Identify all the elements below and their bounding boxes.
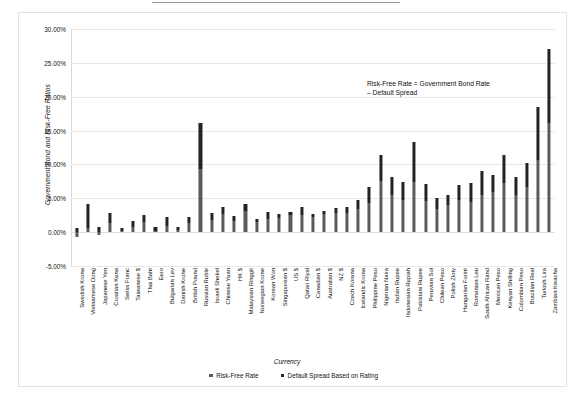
- bar-segment-risk-free-rate: [379, 181, 382, 232]
- x-axis-tick-label: US $: [293, 268, 299, 281]
- x-axis-tick-label: Polish Zloty: [450, 268, 456, 298]
- bar-group: [442, 29, 453, 266]
- bar-group: [364, 29, 375, 266]
- chart-annotation: Risk-Free Rate = Government Bond Rate – …: [367, 80, 490, 97]
- y-axis-title: Government Bond and Risk-Free Ratios: [44, 55, 51, 235]
- bar-segment-risk-free-rate: [492, 192, 495, 233]
- bar-segment-default-spread: [492, 175, 495, 192]
- bar-segment-risk-free-rate: [143, 222, 146, 232]
- chart-container: Government Bond and Risk-Free Ratios 30.…: [18, 12, 567, 387]
- bar-segment-default-spread: [525, 163, 528, 187]
- x-axis-tick-label: Japanese Yen: [102, 268, 108, 305]
- bar-segment-default-spread: [368, 187, 371, 203]
- bar-group: [420, 29, 431, 266]
- bar-group: [341, 29, 352, 266]
- bar-segment-risk-free-rate: [131, 227, 134, 232]
- x-axis-tick-label: HK $: [237, 268, 243, 281]
- bar-segment-default-spread: [289, 212, 292, 215]
- x-axis-tick-label: NZ $: [338, 268, 344, 281]
- bar-group: [296, 29, 307, 266]
- legend-item[interactable]: Risk-Free Rate: [209, 372, 258, 379]
- bar-segment-default-spread: [210, 213, 213, 220]
- bar-group: [465, 29, 476, 266]
- bar-group: [386, 29, 397, 266]
- x-axis-tick-label: Brazilian Real: [529, 268, 535, 304]
- bar-segment-risk-free-rate: [289, 215, 292, 233]
- bar-segment-risk-free-rate: [278, 218, 281, 232]
- x-axis-tick-label: Thai Baht: [147, 268, 153, 293]
- x-axis-tick-labels: Swedish KronaVietnamese DongJapanese Yen…: [71, 268, 555, 356]
- bar-segment-default-spread: [255, 219, 258, 222]
- bar-segment-default-spread: [413, 142, 416, 182]
- page-top-rule: [152, 2, 400, 3]
- bar-segment-risk-free-rate: [356, 209, 359, 232]
- bar-segment-default-spread: [345, 207, 348, 213]
- x-axis-tick-label: Zambian Kwacha: [552, 268, 558, 314]
- bar-segment-default-spread: [537, 107, 540, 161]
- y-axis-tick-label: 15.00%: [44, 127, 66, 134]
- bar-segment-default-spread: [469, 183, 472, 202]
- bar-group: [532, 29, 543, 266]
- bar-group: [499, 29, 510, 266]
- x-axis-tick-label: Bulgarian Lev: [169, 268, 175, 304]
- x-axis-tick-label: Romanian Leu: [473, 268, 479, 306]
- bar-segment-risk-free-rate: [300, 215, 303, 233]
- bar-group: [251, 29, 262, 266]
- bar-segment-risk-free-rate: [447, 205, 450, 232]
- x-axis-tick-label: Korean Won: [270, 268, 276, 301]
- bar-group: [71, 29, 82, 266]
- x-axis-tick-label: Peruvian Sol: [428, 268, 434, 301]
- bar-group: [139, 29, 150, 266]
- bar-group: [397, 29, 408, 266]
- y-axis-tick-label: 5.00%: [48, 195, 66, 202]
- x-axis-tick-label: Indian Rupee: [394, 268, 400, 303]
- bar-segment-default-spread: [401, 182, 404, 200]
- bar-segment-risk-free-rate: [86, 228, 89, 232]
- bar-segment-default-spread: [266, 212, 269, 218]
- x-axis-tick-label: Norwegian Krone: [259, 268, 265, 314]
- bar-group: [172, 29, 183, 266]
- bar-group: [206, 29, 217, 266]
- bar-group: [431, 29, 442, 266]
- bar-segment-default-spread: [75, 228, 78, 232]
- bar-group: [409, 29, 420, 266]
- bar-segment-default-spread: [278, 214, 281, 218]
- bar-segment-risk-free-rate: [514, 195, 517, 232]
- bar-segment-risk-free-rate: [368, 203, 371, 232]
- bar-segment-risk-free-rate: [458, 200, 461, 233]
- bar-group: [375, 29, 386, 266]
- bar-segment-default-spread: [131, 221, 134, 226]
- bar-segment-risk-free-rate: [345, 213, 348, 232]
- bar-segment-default-spread: [165, 217, 168, 225]
- bar-group: [217, 29, 228, 266]
- plot-area: 30.00%25.00%20.00%15.00%10.00%5.00%0.00%…: [71, 29, 555, 266]
- bar-segment-risk-free-rate: [311, 217, 314, 232]
- bar-segment-risk-free-rate: [210, 220, 213, 232]
- bar-segment-risk-free-rate: [98, 232, 101, 235]
- bar-segment-default-spread: [199, 123, 202, 169]
- bar-segment-risk-free-rate: [390, 195, 393, 233]
- bar-group: [521, 29, 532, 266]
- bar-segment-risk-free-rate: [154, 231, 157, 232]
- bar-group: [330, 29, 341, 266]
- bar-group: [150, 29, 161, 266]
- bar-group: [161, 29, 172, 266]
- x-axis-tick-label: Swedish Krona: [79, 268, 85, 308]
- bar-segment-default-spread: [300, 207, 303, 214]
- legend-swatch-icon: [281, 374, 285, 378]
- legend-label: Default Spread Based on Rating: [288, 372, 378, 379]
- bar-segment-risk-free-rate: [503, 183, 506, 232]
- bar-segment-default-spread: [447, 195, 450, 205]
- bar-segment-risk-free-rate: [334, 213, 337, 233]
- bar-group: [544, 29, 555, 266]
- bar-group: [274, 29, 285, 266]
- bar-segment-risk-free-rate: [266, 219, 269, 233]
- legend-item[interactable]: Default Spread Based on Rating: [281, 372, 378, 379]
- bar-group: [285, 29, 296, 266]
- bar-segment-risk-free-rate: [480, 195, 483, 232]
- bar-segment-risk-free-rate: [413, 182, 416, 232]
- x-axis-tick-label: Danish Krone: [180, 268, 186, 304]
- bar-group: [127, 29, 138, 266]
- bar-group: [82, 29, 93, 266]
- bar-segment-default-spread: [109, 213, 112, 223]
